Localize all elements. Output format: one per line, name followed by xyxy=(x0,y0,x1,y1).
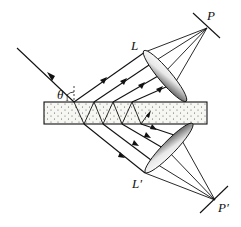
arrow-icon xyxy=(156,86,163,93)
arrow-icon xyxy=(150,124,157,130)
arrow-icon xyxy=(144,132,151,138)
arrow-icon xyxy=(138,82,145,89)
lens-l-label: L xyxy=(130,38,138,53)
screen-p-prime-label: P′ xyxy=(217,200,229,215)
angle-label: θ xyxy=(57,87,64,102)
plane-parallel-plate xyxy=(44,102,207,124)
screen-p-prime: P′ xyxy=(200,186,229,215)
arrow-icon xyxy=(118,152,125,158)
interference-diagram: θ 1 L P xyxy=(0,0,241,227)
screen-p: P xyxy=(193,8,220,38)
lens-l-prime-label: L′ xyxy=(131,176,142,191)
angle-theta: θ 1 xyxy=(57,86,74,103)
arrow-icon xyxy=(132,140,139,146)
angle-subscript: 1 xyxy=(65,94,69,103)
screen-p-label: P xyxy=(206,8,215,23)
